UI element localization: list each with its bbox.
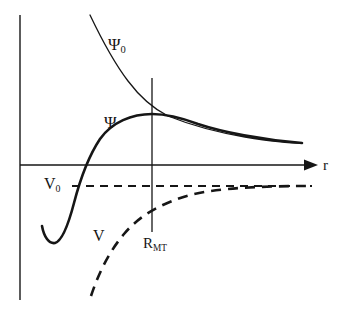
curve-label-v: V [93,228,105,244]
curve-label-psi0-subscript: 0 [121,44,126,55]
v0-level-label-subscript: 0 [56,183,61,194]
plot-canvas [0,0,344,316]
v0-level-label: V0 [44,176,61,194]
v-potential-curve [91,186,312,296]
v0-level-label-base: V [44,175,56,192]
rmt-marker-label-subscript: MT [153,243,167,253]
curve-label-psi0: Ψ0 [108,36,126,55]
curve-label-psi: Ψ [104,114,117,131]
curve-label-v-base: V [93,227,105,244]
rmt-marker-label-base: R [143,235,153,251]
x-axis-label: r [323,158,328,173]
curve-label-psi0-base: Ψ [108,35,121,54]
axis-arrow-head-icon [304,160,318,171]
rmt-marker-label: RMT [143,236,167,253]
psi-curve [42,114,302,243]
curve-label-psi-base: Ψ [104,113,117,132]
figure-container: Ψ0 Ψ r V0 V RMT [0,0,344,316]
